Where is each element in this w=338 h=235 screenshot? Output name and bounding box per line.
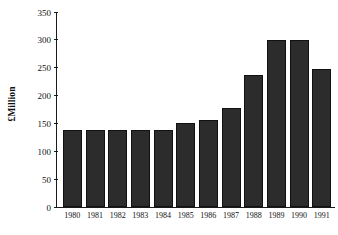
y-tick-label: 0 xyxy=(47,203,52,212)
x-tick-label: 1982 xyxy=(106,209,129,225)
bar-chart: £Million 050100150200250300350 198019811… xyxy=(0,0,338,235)
y-tick-label: 250 xyxy=(38,64,52,73)
bar[interactable] xyxy=(154,130,173,207)
bar[interactable] xyxy=(63,130,82,207)
bar[interactable] xyxy=(244,75,263,207)
x-axis-ticks: 1980198119821983198419851986198719881989… xyxy=(57,209,335,225)
y-tick-label: 350 xyxy=(38,8,52,17)
x-tick-label: 1980 xyxy=(61,209,84,225)
x-tick-label: 1987 xyxy=(220,209,243,225)
bar-slot xyxy=(174,12,197,207)
x-tick-label: 1991 xyxy=(310,209,333,225)
bar[interactable] xyxy=(267,40,286,207)
y-tick-label: 150 xyxy=(38,119,52,128)
bar[interactable] xyxy=(222,108,241,207)
x-tick-label: 1986 xyxy=(197,209,220,225)
bar-slot xyxy=(310,12,333,207)
bar-slot xyxy=(242,12,265,207)
bar-slot xyxy=(84,12,107,207)
x-axis-line xyxy=(56,207,335,208)
bar-slot xyxy=(265,12,288,207)
x-tick-label: 1988 xyxy=(242,209,265,225)
plot-area: 050100150200250300350 xyxy=(57,12,335,207)
bar[interactable] xyxy=(312,69,331,207)
x-tick-label: 1990 xyxy=(288,209,311,225)
y-tick-label: 300 xyxy=(38,36,52,45)
bar[interactable] xyxy=(131,130,150,207)
bar-slot xyxy=(106,12,129,207)
x-tick-label: 1989 xyxy=(265,209,288,225)
x-tick-label: 1985 xyxy=(174,209,197,225)
bar[interactable] xyxy=(86,130,105,207)
bar-slot xyxy=(152,12,175,207)
bar[interactable] xyxy=(290,40,309,207)
bar-slot xyxy=(129,12,152,207)
y-tick-label: 50 xyxy=(42,175,51,184)
bar-slot xyxy=(61,12,84,207)
bar[interactable] xyxy=(199,120,218,207)
y-tick-label: 200 xyxy=(38,92,52,101)
bar-series xyxy=(57,12,335,207)
x-tick-label: 1983 xyxy=(129,209,152,225)
y-axis-label-text: £Million xyxy=(7,86,17,121)
bar-slot xyxy=(197,12,220,207)
bar-slot xyxy=(288,12,311,207)
x-tick-label: 1981 xyxy=(84,209,107,225)
y-axis-label: £Million xyxy=(2,0,22,207)
y-tick-label: 100 xyxy=(38,147,52,156)
x-tick-label: 1984 xyxy=(152,209,175,225)
bar-slot xyxy=(220,12,243,207)
bar[interactable] xyxy=(108,130,127,207)
bar[interactable] xyxy=(176,123,195,207)
